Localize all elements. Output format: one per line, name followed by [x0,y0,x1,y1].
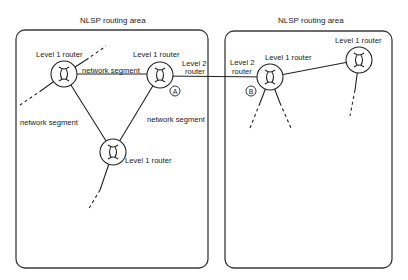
nlsp-diagram: NLSP routing area NLSP routing area [0,0,408,280]
level2-label: router [185,67,205,76]
router-icon [257,64,283,90]
inter-area-link [160,76,270,77]
dashed-stub [86,46,106,60]
svg-text:B: B [249,88,254,95]
router-label: Level 1 router [265,53,312,62]
dashed-stub [20,90,42,105]
right-area-title: NLSP routing area [278,16,344,25]
dashed-stub [280,103,291,128]
segment-label-top: network segment [82,66,141,75]
marker-b: B [246,86,256,96]
router-label: Level 1 router [133,50,180,59]
router-icon [51,61,77,87]
router-label: Level 1 router [36,50,83,59]
right-area-segment [270,60,359,77]
router-icon [346,47,372,73]
level2-label: router [232,67,252,76]
network-segment-left [64,74,113,152]
router-label: Level 1 router [335,36,382,45]
dashed-stub [250,103,260,128]
router-label: Level 1 router [125,156,172,165]
segment-label-left: network segment [20,118,79,127]
router-icon [147,62,173,88]
dashed-stub [350,90,355,116]
dashed-stub [88,190,100,210]
level2-label: Level 2 [230,58,255,67]
router-icon [100,139,126,165]
left-area-title: NLSP routing area [80,16,146,25]
segment-label-right: network segment [147,115,206,124]
marker-a: A [170,86,180,96]
svg-text:A: A [173,88,178,95]
